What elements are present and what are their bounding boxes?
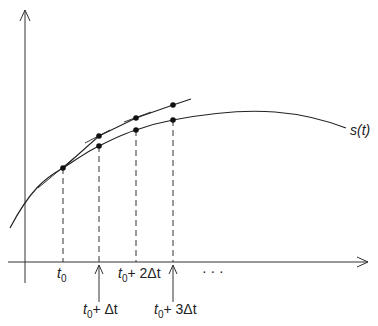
label-t0: t0 bbox=[57, 265, 67, 284]
label-t0-plus-3dt: t0+ 3Δt bbox=[154, 301, 197, 320]
true-point-t3 bbox=[170, 117, 176, 123]
tangent-at-t0 bbox=[38, 158, 74, 188]
dashed-guides bbox=[63, 120, 173, 262]
approx-point-t3 bbox=[170, 102, 176, 108]
curve-label: s(t) bbox=[350, 122, 370, 138]
approx-point-t1 bbox=[96, 133, 102, 139]
tangent-segments bbox=[38, 112, 151, 188]
true-point-t2 bbox=[133, 127, 139, 133]
true-point-t1 bbox=[96, 143, 102, 149]
axes bbox=[8, 10, 368, 283]
label-t0-plus-dt: t0+ Δt bbox=[83, 301, 118, 320]
approx-point-t2 bbox=[133, 115, 139, 121]
label-t0-plus-2dt: t0+ 2Δt bbox=[118, 265, 161, 284]
ellipsis: · · · bbox=[202, 263, 224, 279]
point-t0 bbox=[60, 165, 66, 171]
euler-diagram: s(t) t0 t0+ 2Δt t0+ Δt t0+ 3Δt · · · bbox=[0, 0, 378, 326]
